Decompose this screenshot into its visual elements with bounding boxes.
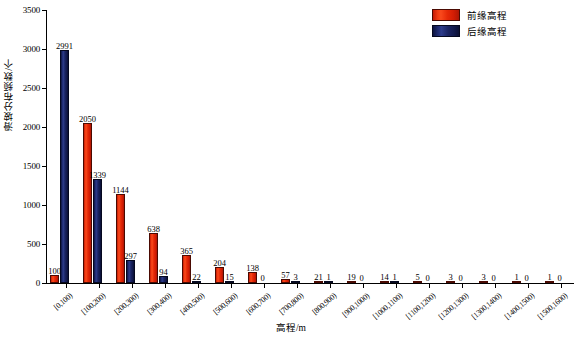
bar-front-edge: 204 xyxy=(215,267,225,283)
x-axis-tick-label: [1100,1200) xyxy=(405,292,438,321)
x-axis-tick xyxy=(429,284,430,288)
bar-value-label: 57 xyxy=(281,271,290,280)
bar-front-edge: 3 xyxy=(446,281,456,283)
y-axis-tick xyxy=(42,205,46,206)
plot-area: 0500100015002000250030003500 10029912050… xyxy=(46,10,574,283)
x-axis-tick-label: [1400,1500) xyxy=(503,292,536,321)
x-axis-tick xyxy=(330,284,331,288)
bar-value-label: 1144 xyxy=(112,186,129,195)
y-axis-tick-label: 0 xyxy=(36,279,40,288)
x-axis-title: 高程/m xyxy=(0,320,582,334)
bar-value-label: 19 xyxy=(347,273,356,282)
bar-value-label: 14 xyxy=(380,273,389,282)
bar-value-label: 1 xyxy=(547,273,551,282)
x-axis-tick xyxy=(264,284,265,288)
y-axis-tick xyxy=(42,166,46,167)
bar-value-label: 1 xyxy=(514,273,518,282)
x-axis-tick xyxy=(66,284,67,288)
bar-value-label: 204 xyxy=(213,259,226,268)
bar-rear-edge: 2991 xyxy=(60,50,70,283)
bar-value-label: 0 xyxy=(491,274,495,283)
x-axis-tick xyxy=(396,284,397,288)
y-axis-title: 滑坡分布频数/个 xyxy=(2,58,16,131)
bar-value-label: 2050 xyxy=(79,115,96,124)
bar-value-label: 0 xyxy=(458,274,462,283)
x-axis-tick-label: [1500,1600) xyxy=(536,292,569,321)
x-axis-tick-label: [0,100) xyxy=(53,292,74,312)
bar-value-label: 3 xyxy=(293,273,297,282)
x-axis-tick-label: [500,600) xyxy=(212,292,239,317)
y-axis-tick-label: 1000 xyxy=(23,201,40,210)
x-axis-tick-label: [1000,1100) xyxy=(372,292,405,321)
x-axis-tick-label: [200,300) xyxy=(113,292,140,317)
bar-front-edge: 5 xyxy=(413,281,423,283)
bar-front-edge: 100 xyxy=(50,275,60,283)
x-axis-tick-label: [600,700) xyxy=(245,292,272,317)
x-axis-tick-label: [1300,1400) xyxy=(470,292,503,321)
x-axis-tick xyxy=(561,284,562,288)
bar-value-label: 5 xyxy=(415,273,419,282)
bar-rear-edge: 1 xyxy=(390,281,400,283)
bar-rear-edge: 297 xyxy=(126,260,136,283)
bar-front-edge: 19 xyxy=(347,281,357,283)
bar-value-label: 0 xyxy=(557,274,561,283)
bar-value-label: 1 xyxy=(326,273,330,282)
x-axis-tick xyxy=(528,284,529,288)
bar-value-label: 0 xyxy=(260,274,264,283)
bar-value-label: 0 xyxy=(524,274,528,283)
legend-label-rear-edge: 后缘高程 xyxy=(467,24,507,38)
y-axis-tick-label: 500 xyxy=(27,240,40,249)
bar-value-label: 1339 xyxy=(89,171,106,180)
y-axis-tick xyxy=(42,244,46,245)
bar-rear-edge: 94 xyxy=(159,276,169,283)
bar-value-label: 365 xyxy=(180,247,193,256)
bar-front-edge: 1144 xyxy=(116,194,126,283)
x-axis-tick xyxy=(462,284,463,288)
x-axis-tick xyxy=(165,284,166,288)
bar-rear-edge: 1 xyxy=(324,281,334,283)
x-axis-tick-label: [700,800) xyxy=(278,292,305,317)
bar-value-label: 297 xyxy=(124,252,137,261)
bar-front-edge: 365 xyxy=(182,255,192,283)
landslide-elevation-bar-chart: 滑坡分布频数/个 高程/m 05001000150020002500300035… xyxy=(0,0,582,338)
bar-value-label: 3 xyxy=(448,273,452,282)
bar-value-label: 22 xyxy=(192,273,201,282)
x-axis-tick xyxy=(495,284,496,288)
legend-label-front-edge: 前缘高程 xyxy=(467,8,507,22)
y-axis-tick xyxy=(42,127,46,128)
bar-value-label: 0 xyxy=(359,274,363,283)
y-axis-tick xyxy=(42,10,46,11)
y-axis-line xyxy=(46,10,47,283)
bar-value-label: 94 xyxy=(159,268,168,277)
legend-swatch-blue-icon xyxy=(432,25,460,37)
bar-front-edge: 1 xyxy=(545,281,555,283)
bar-rear-edge: 3 xyxy=(291,281,301,283)
bar-value-label: 138 xyxy=(246,264,259,273)
y-axis-tick-label: 3000 xyxy=(23,45,40,54)
x-axis-tick-label: [400,500) xyxy=(179,292,206,317)
bar-front-edge: 2050 xyxy=(83,123,93,283)
bar-front-edge: 21 xyxy=(314,281,324,283)
legend-item-rear-edge: 后缘高程 xyxy=(432,24,507,37)
bar-value-label: 21 xyxy=(314,273,323,282)
legend-item-front-edge: 前缘高程 xyxy=(432,8,507,21)
bar-value-label: 2991 xyxy=(56,42,73,51)
bar-front-edge: 638 xyxy=(149,233,159,283)
x-axis-tick xyxy=(363,284,364,288)
y-axis-tick-label: 3500 xyxy=(23,6,40,15)
x-axis-tick-label: [300,400) xyxy=(146,292,173,317)
bar-value-label: 638 xyxy=(147,225,160,234)
bar-front-edge: 3 xyxy=(479,281,489,283)
bar-rear-edge: 1339 xyxy=(93,179,103,283)
x-axis-tick-label: [1200,1300) xyxy=(437,292,470,321)
bar-front-edge: 1 xyxy=(512,281,522,283)
x-axis-tick-label: [100,200) xyxy=(80,292,107,317)
x-axis-tick xyxy=(297,284,298,288)
y-axis-tick xyxy=(42,88,46,89)
bar-front-edge: 138 xyxy=(248,272,258,283)
x-axis-tick xyxy=(132,284,133,288)
bar-front-edge: 14 xyxy=(380,281,390,283)
bar-value-label: 0 xyxy=(425,274,429,283)
y-axis-tick-label: 2000 xyxy=(23,123,40,132)
y-axis-tick-label: 1500 xyxy=(23,162,40,171)
